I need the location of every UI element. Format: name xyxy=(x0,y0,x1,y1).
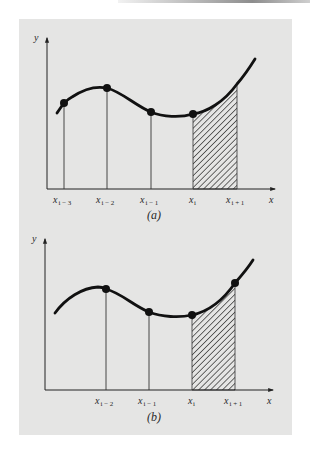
panel-a: y x xi − 3 xi − 2 xi − 1 xi xi + 1 (a) xyxy=(33,32,275,222)
panel-b-point-xi+1 xyxy=(231,279,239,287)
panel-a-tick-xi-2: xi − 2 xyxy=(95,194,115,207)
panel-b-point-xi-1 xyxy=(145,308,153,316)
panel-b-tick-xi-1: xi − 1 xyxy=(137,395,157,408)
panel-b-point-xi-2 xyxy=(102,285,110,293)
panel-b-tick-xi+1: xi + 1 xyxy=(223,395,243,408)
panel-a-point-xi xyxy=(189,110,197,118)
panel-a-caption: (a) xyxy=(147,208,161,222)
panel-b-y-label: y xyxy=(31,233,37,244)
panel-b-shaded-area xyxy=(192,283,235,390)
panel-b: y x xi − 2 xi − 1 xi xi + 1 (b) xyxy=(31,233,273,424)
panel-a-point-xi-3 xyxy=(60,99,68,107)
panel-a-tick-xi+1: xi + 1 xyxy=(225,194,245,207)
panel-a-y-label: y xyxy=(33,32,39,43)
panel-a-tick-xi: xi xyxy=(188,194,196,207)
panel-a-tick-xi-1: xi − 1 xyxy=(139,194,159,207)
panel-a-x-label: x xyxy=(268,194,274,205)
panel-b-point-xi xyxy=(188,311,196,319)
panel-b-tick-xi: xi xyxy=(187,395,195,408)
panel-a-point-xi-1 xyxy=(147,108,155,116)
panel-a-tick-xi-3: xi − 3 xyxy=(52,194,72,207)
panel-b-caption: (b) xyxy=(147,410,161,424)
panel-b-x-label: x xyxy=(266,395,272,406)
figure-canvas: y x xi − 3 xi − 2 xi − 1 xi xi + 1 (a) y… xyxy=(0,0,310,459)
panel-b-tick-xi-2: xi − 2 xyxy=(94,395,114,408)
panel-a-shaded-area xyxy=(193,84,237,189)
panel-a-point-xi-2 xyxy=(103,84,111,92)
